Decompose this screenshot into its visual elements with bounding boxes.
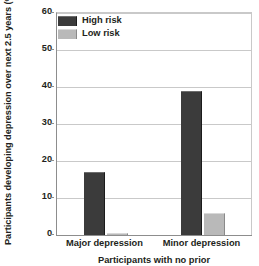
legend-entry-low-risk: Low risk (58, 27, 144, 40)
x-tick-label: Minor depression (153, 238, 250, 248)
y-tick-label: 20 (6, 155, 52, 164)
x-axis-line (56, 235, 252, 236)
bar-chart-figure: Participants developing depression over … (0, 0, 259, 266)
y-tick-mark (50, 86, 54, 87)
gridline (57, 50, 251, 51)
y-tick-label: 30 (6, 118, 52, 127)
y-axis-ticks: 0102030405060 (0, 12, 52, 234)
legend-label-low-risk: Low risk (82, 29, 120, 38)
y-tick-mark (50, 234, 54, 235)
x-axis-ticks: Major depressionMinor depression (56, 238, 252, 252)
x-axis-title: Participants with no prior (56, 255, 252, 266)
y-tick-mark (50, 12, 54, 13)
plot-inner (57, 13, 251, 235)
y-tick-label: 40 (6, 81, 52, 90)
chart-legend: High risk Low risk (58, 14, 144, 41)
y-tick-mark (50, 49, 54, 50)
y-tick-mark (50, 123, 54, 124)
y-tick-label: 10 (6, 192, 52, 201)
plot-area (56, 12, 252, 235)
bar-high-risk (84, 172, 105, 235)
y-tick-label: 0 (6, 229, 52, 238)
y-tick-mark (50, 160, 54, 161)
legend-label-high-risk: High risk (82, 16, 122, 25)
x-tick-label: Major depression (56, 238, 153, 248)
y-tick-mark (50, 197, 54, 198)
bar-low-risk (204, 213, 225, 235)
legend-swatch-high-risk (58, 16, 77, 26)
legend-entry-high-risk: High risk (58, 14, 144, 27)
gridline (57, 87, 251, 88)
bar-high-risk (181, 91, 202, 235)
gridline (57, 161, 251, 162)
y-tick-label: 60 (6, 7, 52, 16)
gridline (57, 124, 251, 125)
legend-swatch-low-risk (58, 29, 77, 39)
y-tick-label: 50 (6, 44, 52, 53)
